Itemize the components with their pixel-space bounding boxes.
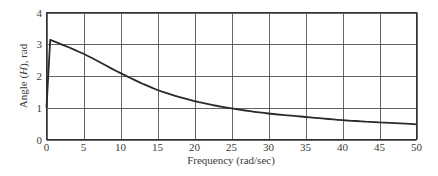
y-tick-label: 0 [37,134,43,146]
x-tick-label: 10 [115,141,127,153]
y-tick-label: 3 [37,38,43,50]
x-tick-label: 30 [263,141,275,153]
x-tick-label: 35 [300,141,312,153]
x-tick-label: 20 [189,141,201,153]
y-tick-labels: 01234 [37,7,43,146]
x-tick-label: 45 [374,141,386,153]
x-tick-label: 25 [226,141,238,153]
y-axis-label-post: ), rad [17,43,30,67]
y-tick-label: 2 [37,70,43,82]
angle-curve [47,40,417,125]
x-tick-label: 50 [411,141,423,153]
x-tick-labels: 05101520253035404550 [44,141,423,153]
chart: 05101520253035404550 01234 Frequency (ra… [0,0,438,176]
x-axis-label: Frequency (rad/sec) [187,154,275,167]
x-tick-label: 5 [81,141,87,153]
y-axis-label: Angle (H), rad [17,43,30,108]
x-tick-label: 0 [44,141,50,153]
x-tick-label: 40 [337,141,349,153]
y-axis-label-pre: Angle ( [17,75,30,109]
y-tick-label: 1 [37,102,43,114]
x-tick-label: 15 [152,141,164,153]
y-tick-label: 4 [37,7,43,19]
